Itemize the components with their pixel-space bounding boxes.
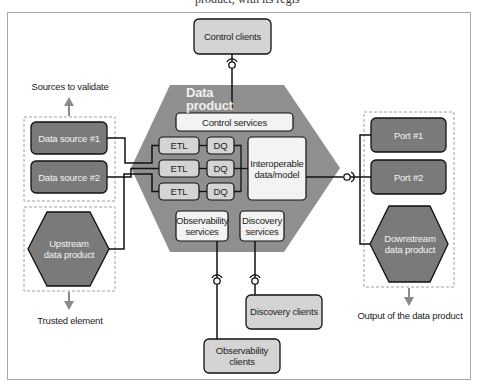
downstream-data-product-label: Downstream data product	[380, 233, 440, 255]
dq-label-2: DQ	[207, 163, 234, 174]
discovery-clients-label: Discovery clients	[246, 306, 322, 317]
etl-label-3: ETL	[159, 186, 199, 197]
interoperable-label: Interoperable data/model	[250, 158, 304, 180]
control-services-label: Control services	[176, 117, 293, 128]
etl-label-2: ETL	[159, 163, 199, 174]
dq-label-1: DQ	[207, 140, 234, 151]
port-2-label: Port #2	[371, 172, 446, 183]
observability-clients-label: Observability clients	[214, 345, 270, 367]
control-clients-label: Control clients	[194, 31, 271, 42]
arrow-up-icon	[64, 97, 74, 116]
dq-label-3: DQ	[207, 186, 234, 197]
sources-to-validate-caption: Sources to validate	[20, 81, 120, 92]
discovery-services-label: Discovery services	[240, 215, 284, 237]
port-1-label: Port #1	[371, 130, 446, 141]
trusted-element-caption: Trusted element	[20, 315, 120, 326]
etl-label-1: ETL	[159, 140, 199, 151]
arrow-down-icon	[64, 292, 74, 310]
data-product-title: Data product	[186, 86, 236, 112]
output-caption: Output of the data product	[354, 310, 466, 321]
architecture-diagram	[0, 0, 478, 386]
data-source-2-label: Data source #2	[31, 172, 107, 183]
upstream-data-product-label: Upstream data product	[40, 238, 98, 260]
arrow-down-icon	[404, 288, 414, 306]
observability-services-label: Observability services	[176, 215, 228, 237]
data-source-1-label: Data source #1	[31, 133, 107, 144]
